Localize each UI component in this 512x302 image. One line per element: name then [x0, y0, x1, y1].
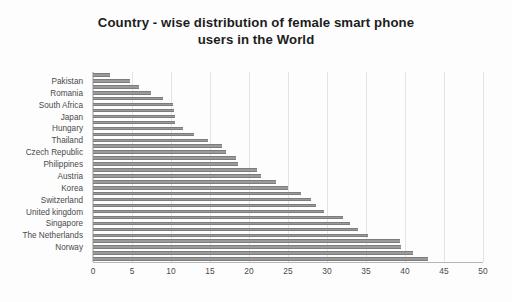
bar: [93, 73, 110, 77]
bar: [93, 85, 139, 89]
bar: [93, 79, 130, 83]
x-axis-tick-label: 35: [361, 266, 370, 276]
bar: [93, 239, 400, 243]
y-axis-label: Hungary: [52, 124, 83, 133]
chart-container: Country - wise distribution of female sm…: [0, 0, 512, 302]
x-axis-tick-label: 10: [166, 266, 175, 276]
bar: [93, 216, 343, 220]
bar: [93, 210, 324, 214]
x-axis-tick-label: 15: [205, 266, 214, 276]
y-axis-label: Czech Republic: [26, 148, 83, 157]
bar: [93, 251, 413, 255]
bar: [93, 115, 175, 119]
bar: [93, 257, 428, 261]
bar: [93, 228, 358, 232]
x-axis-tick-label: 50: [478, 266, 487, 276]
y-axis-label: Thailand: [52, 136, 83, 145]
x-axis-line: [93, 262, 483, 263]
y-axis-label: Singapore: [46, 219, 83, 228]
bar: [93, 156, 236, 160]
bar: [93, 180, 276, 184]
x-axis-tick-label: 0: [91, 266, 96, 276]
bar: [93, 91, 151, 95]
y-axis-label: The Netherlands: [22, 231, 83, 240]
bars-layer: [93, 72, 483, 262]
y-axis-label-group: PakistanRomaniaSouth AfricaJapanHungaryT…: [0, 72, 88, 262]
y-axis-label: United kingdom: [26, 207, 83, 216]
bar: [93, 150, 226, 154]
y-axis-label: Austria: [58, 171, 83, 180]
bar: [93, 234, 368, 238]
x-axis-label-group: 05101520253035404550: [93, 266, 483, 282]
bar: [93, 127, 183, 131]
bar: [93, 192, 301, 196]
x-axis-tick-label: 5: [130, 266, 135, 276]
y-axis-label: Romania: [50, 88, 83, 97]
plot-area: [93, 72, 483, 262]
x-axis-tick-label: 25: [283, 266, 292, 276]
x-axis-tick-label: 20: [244, 266, 253, 276]
y-axis-label: Korea: [61, 183, 83, 192]
y-axis-label: Philippines: [43, 160, 83, 169]
x-axis-tick-label: 45: [439, 266, 448, 276]
y-axis-label: South Africa: [39, 100, 83, 109]
bar: [93, 109, 174, 113]
bar: [93, 103, 173, 107]
gridline-50: [483, 72, 484, 262]
bar: [93, 121, 175, 125]
bar: [93, 186, 288, 190]
chart-title-line-1: Country - wise distribution of female sm…: [98, 15, 414, 30]
bar: [93, 245, 401, 249]
bar: [93, 204, 316, 208]
y-axis-label: Norway: [55, 243, 83, 252]
chart-title-line-2: users in the World: [56, 31, 456, 48]
x-axis-tick-label: 40: [400, 266, 409, 276]
y-axis-label: Pakistan: [52, 76, 83, 85]
bar: [93, 144, 222, 148]
bar: [93, 97, 163, 101]
bar: [93, 133, 194, 137]
x-axis-tick-label: 30: [322, 266, 331, 276]
bar: [93, 168, 257, 172]
bar: [93, 162, 238, 166]
y-axis-label: Switzerland: [41, 195, 83, 204]
bar: [93, 198, 311, 202]
bar: [93, 139, 208, 143]
chart-title: Country - wise distribution of female sm…: [56, 14, 456, 48]
bar: [93, 222, 350, 226]
bar: [93, 174, 261, 178]
y-axis-label: Japan: [61, 112, 83, 121]
